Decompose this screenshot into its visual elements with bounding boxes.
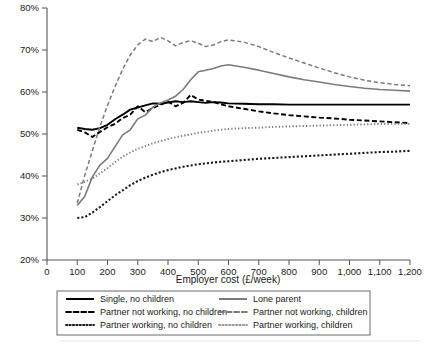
x-tick-label: 200 (100, 266, 116, 277)
y-tick-label: 60% (20, 86, 40, 97)
y-tick-label: 20% (20, 254, 40, 265)
x-tick-label: 1,000 (338, 266, 362, 277)
x-tick-label: 1,100 (368, 266, 392, 277)
y-tick-label: 30% (20, 212, 40, 223)
legend: Single, no childrenLone parentPartner no… (57, 291, 370, 335)
y-tick-group: 20%30%40%50%60%70%80% (20, 2, 47, 265)
x-tick-label: 1,200 (398, 266, 422, 277)
chart-container: 20%30%40%50%60%70%80% 010020030040050060… (0, 0, 428, 346)
x-tick-label: 900 (311, 266, 327, 277)
series-line (77, 65, 410, 206)
x-tick-label: 100 (69, 266, 85, 277)
series-line (77, 151, 410, 218)
x-tick-label: 800 (281, 266, 297, 277)
legend-label: Single, no children (100, 294, 174, 304)
legend-label: Partner not working, children (253, 307, 368, 317)
legend-label: Lone parent (253, 294, 302, 304)
legend-label: Partner working, no children (100, 320, 212, 330)
x-tick-label: 400 (160, 266, 176, 277)
line-chart: 20%30%40%50%60%70%80% 010020030040050060… (0, 0, 428, 346)
y-tick-label: 80% (20, 2, 40, 13)
legend-label: Partner working, children (253, 320, 353, 330)
y-axis: 20%30%40%50%60%70%80% (20, 2, 47, 265)
y-tick-label: 40% (20, 170, 40, 181)
x-axis-title: Employer cost (£/week) (176, 274, 280, 285)
legend-label: Partner not working, no children (100, 307, 227, 317)
x-tick-label: 0 (44, 266, 49, 277)
series-line (77, 95, 410, 137)
legend-items: Single, no childrenLone parentPartner no… (66, 294, 368, 330)
series-group (77, 37, 410, 218)
x-tick-label: 300 (130, 266, 146, 277)
y-tick-label: 50% (20, 128, 40, 139)
y-tick-label: 70% (20, 44, 40, 55)
